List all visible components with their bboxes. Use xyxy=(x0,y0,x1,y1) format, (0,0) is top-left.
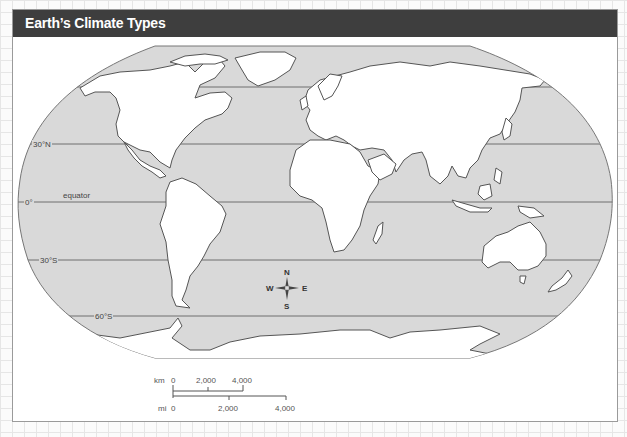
scale-km-unit: km xyxy=(154,376,165,385)
latitude-label-equator: 0° xyxy=(24,198,34,207)
world-map xyxy=(0,0,627,437)
latitude-label-60s: 60°S xyxy=(94,312,113,321)
scale-km-tick-0: 0 xyxy=(171,376,175,385)
scale-km-tick-2000: 2,000 xyxy=(196,376,216,385)
scale-mi-tick-4000: 4,000 xyxy=(275,404,295,413)
compass-south: S xyxy=(284,302,289,311)
scale-mi-tick-0: 0 xyxy=(171,404,175,413)
latitude-label-30n: 30°N xyxy=(32,140,52,149)
scale-mi-tick-2000: 2,000 xyxy=(218,404,238,413)
compass-west: W xyxy=(266,284,274,293)
compass-east: E xyxy=(302,284,307,293)
equator-label: equator xyxy=(63,191,90,200)
scale-mi-unit: mi xyxy=(158,404,166,413)
compass-north: N xyxy=(284,268,290,277)
latitude-label-30s: 30°S xyxy=(39,256,58,265)
scale-km-tick-4000: 4,000 xyxy=(232,376,252,385)
